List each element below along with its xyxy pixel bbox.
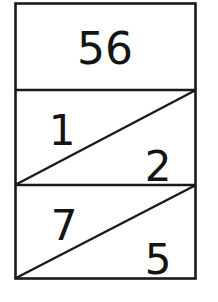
figure-container: 56 1 2 7 5	[0, 0, 218, 302]
label-row-bottom-lower-right: 5	[145, 235, 172, 284]
label-row-top-value: 56	[77, 23, 133, 74]
divided-rectangle-figure: 56 1 2 7 5	[0, 0, 218, 302]
label-row-middle-upper-left: 1	[49, 106, 76, 155]
label-row-bottom-upper-left: 7	[51, 201, 78, 250]
label-row-middle-lower-right: 2	[145, 142, 172, 191]
